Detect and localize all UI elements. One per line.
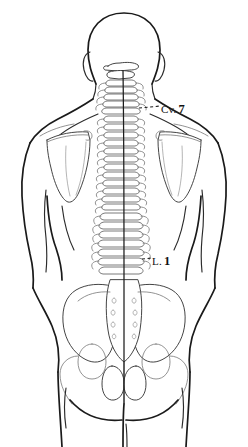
lumbar-vertebra-7 (99, 267, 143, 274)
l1-leader-line (142, 258, 152, 259)
lumbar-vertebra-5 (98, 249, 144, 256)
cervical-vertebra-4 (105, 87, 138, 93)
thoracic-vertebra-8 (103, 172, 140, 178)
thoracic-vertebrae-stack (102, 116, 141, 210)
thoracic-vertebra-12 (102, 204, 141, 210)
left-scapula (47, 131, 92, 202)
label-l1-number: 1 (164, 254, 170, 268)
right-scapula (156, 131, 201, 202)
thoracic-vertebra-1 (104, 116, 139, 122)
right-torso-waist (186, 196, 201, 280)
left-obturator-foramen (102, 366, 124, 400)
neck-left-edge (93, 84, 96, 99)
thoracic-vertebra-7 (104, 164, 139, 170)
cervical-vertebra-7 (102, 108, 141, 114)
left-torso-waist (47, 196, 62, 280)
lumbar-vertebra-3 (99, 231, 143, 238)
left-gluteal-fold (70, 400, 122, 420)
left-latissimus-fold (62, 206, 74, 250)
left-arm-inner (45, 190, 47, 272)
label-cv7-prefix: Cv. (161, 103, 176, 115)
right-hip-outline (189, 288, 215, 372)
thoracic-spine (95, 116, 147, 213)
thoracic-vertebra-2 (104, 124, 139, 130)
cv7-leader-line (139, 106, 160, 108)
thoracic-vertebra-5 (104, 148, 139, 154)
left-arm-outer (22, 143, 34, 288)
lumbar-vertebra-6 (98, 258, 144, 265)
label-l1: L.1 (152, 252, 170, 268)
atlas-vertebra (104, 62, 139, 71)
right-femur-head (170, 356, 188, 404)
gluteal-cleft (123, 404, 124, 447)
cervical-vertebra-3 (106, 80, 137, 86)
axis-vertebra (107, 71, 135, 80)
left-femur-head (60, 356, 78, 404)
thoracic-vertebra-3 (104, 132, 139, 138)
anatomical-figure: Cv.7 L.1 (0, 0, 248, 447)
label-cv7-number: 7 (178, 102, 184, 116)
label-l1-prefix: L. (152, 255, 162, 267)
thoracic-vertebra-6 (104, 156, 139, 162)
cervical-spine (96, 62, 146, 114)
right-gluteal-fold (126, 400, 178, 420)
right-latissimus-fold (174, 206, 186, 250)
lumbar-vertebra-4 (98, 240, 144, 247)
cervical-vertebra-6 (103, 101, 140, 107)
thoracic-vertebra-4 (104, 140, 139, 146)
left-hip-outline (33, 288, 59, 372)
right-arm-outer (215, 143, 227, 288)
lumbar-spine (92, 213, 151, 274)
anatomy-illustration (0, 0, 248, 447)
cervical-vertebra-5 (104, 94, 139, 100)
right-arm-inner (201, 190, 203, 272)
label-cv7: Cv.7 (161, 100, 185, 116)
lumbar-vertebra-2 (99, 222, 143, 229)
thoracic-vertebra-10 (103, 188, 140, 194)
inner-thigh-left (126, 424, 127, 447)
thoracic-vertebra-9 (103, 180, 140, 186)
right-obturator-foramen (124, 366, 146, 400)
lumbar-vertebra-1 (100, 213, 142, 220)
thoracic-vertebra-11 (102, 196, 141, 202)
neck-right-edge (152, 84, 155, 99)
